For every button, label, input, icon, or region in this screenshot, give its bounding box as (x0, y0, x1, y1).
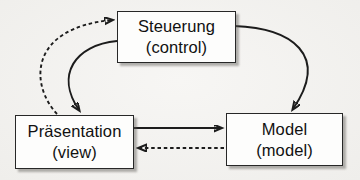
node-model-name: Model (262, 119, 307, 140)
node-control-name: Steuerung (138, 16, 215, 37)
edge-view-to-control-dashed-arrow (40, 20, 112, 114)
node-view: Präsentation (view) (15, 115, 134, 169)
edge-control-to-model-solid-arrow (234, 26, 308, 109)
node-control-annotation: (control) (146, 37, 207, 58)
node-control: Steuerung (control) (117, 11, 236, 63)
edge-control-to-view-solid-arrow (69, 41, 117, 110)
mvc-diagram: Steuerung (control) Präsentation (view) … (0, 0, 360, 180)
node-view-annotation: (view) (52, 142, 97, 163)
node-model-annotation: (model) (256, 140, 313, 161)
node-view-name: Präsentation (28, 121, 122, 142)
node-model: Model (model) (226, 113, 343, 166)
